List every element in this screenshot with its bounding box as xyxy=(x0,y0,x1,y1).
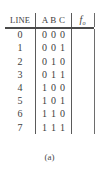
cell-input-b: 0 xyxy=(49,96,58,106)
cell-input-a: 1 xyxy=(40,109,49,119)
cell-input-b: 1 xyxy=(49,123,58,133)
cell-input-c: 0 xyxy=(58,109,67,119)
cell-input-bits: 011 xyxy=(36,68,71,81)
cell-input-c: 0 xyxy=(58,30,67,40)
cell-output-value xyxy=(71,108,94,121)
figure-caption: (a) xyxy=(0,152,99,162)
cell-line-number: 0 xyxy=(5,29,36,42)
table-row: 0000 xyxy=(5,29,94,42)
cell-line-number: 3 xyxy=(5,68,36,81)
cell-output-value xyxy=(71,42,94,55)
truth-table-grid: LINE A B C fo 00001001201030114100510161… xyxy=(5,13,95,134)
table-row: 3011 xyxy=(5,68,94,81)
truth-table-figure: LINE A B C fo 00001001201030114100510161… xyxy=(0,0,99,174)
cell-input-bits: 100 xyxy=(36,81,71,94)
cell-input-a: 1 xyxy=(40,96,49,106)
table-row: 5101 xyxy=(5,95,94,108)
header-row: LINE A B C fo xyxy=(5,13,94,27)
cell-input-c: 1 xyxy=(58,43,67,53)
cell-input-c: 0 xyxy=(58,83,67,93)
cell-input-b: 0 xyxy=(49,43,58,53)
function-letter: f xyxy=(79,14,82,25)
cell-input-a: 1 xyxy=(40,123,49,133)
cell-input-bits: 110 xyxy=(36,108,71,121)
table-row: 4100 xyxy=(5,81,94,94)
table-body: 00001001201030114100510161107111 xyxy=(5,29,94,135)
cell-input-b: 1 xyxy=(49,57,58,67)
cell-input-bits: 101 xyxy=(36,95,71,108)
cell-input-bits: 010 xyxy=(36,55,71,68)
table-row: 7111 xyxy=(5,121,94,134)
table-row: 1001 xyxy=(5,42,94,55)
cell-line-number: 2 xyxy=(5,55,36,68)
cell-output-value xyxy=(71,95,94,108)
cell-input-b: 1 xyxy=(49,109,58,119)
cell-input-bits: 000 xyxy=(36,29,71,42)
column-header-line: LINE xyxy=(5,13,36,27)
cell-output-value xyxy=(71,68,94,81)
function-symbol: fo xyxy=(79,14,85,25)
cell-line-number: 4 xyxy=(5,81,36,94)
cell-input-bits: 001 xyxy=(36,42,71,55)
cell-output-value xyxy=(71,121,94,134)
cell-line-number: 5 xyxy=(5,95,36,108)
function-subscript: o xyxy=(83,19,86,26)
cell-input-bits: 111 xyxy=(36,121,71,134)
cell-line-number: 1 xyxy=(5,42,36,55)
cell-input-a: 0 xyxy=(40,30,49,40)
cell-input-a: 0 xyxy=(40,43,49,53)
cell-input-a: 0 xyxy=(40,57,49,67)
truth-table: LINE A B C fo 00001001201030114100510161… xyxy=(5,13,94,134)
cell-input-b: 0 xyxy=(49,30,58,40)
table-row: 2010 xyxy=(5,55,94,68)
cell-input-c: 1 xyxy=(58,123,67,133)
cell-line-number: 6 xyxy=(5,108,36,121)
cell-input-c: 1 xyxy=(58,70,67,80)
cell-output-value xyxy=(71,81,94,94)
table-header: LINE A B C fo xyxy=(5,13,94,29)
column-header-inputs: A B C xyxy=(36,13,71,27)
cell-input-a: 0 xyxy=(40,70,49,80)
cell-output-value xyxy=(71,29,94,42)
cell-input-a: 1 xyxy=(40,83,49,93)
cell-line-number: 7 xyxy=(5,121,36,134)
table-row: 6110 xyxy=(5,108,94,121)
cell-input-c: 0 xyxy=(58,57,67,67)
cell-input-b: 1 xyxy=(49,70,58,80)
column-header-output: fo xyxy=(71,13,94,27)
cell-output-value xyxy=(71,55,94,68)
cell-input-b: 0 xyxy=(49,83,58,93)
cell-input-c: 1 xyxy=(58,96,67,106)
